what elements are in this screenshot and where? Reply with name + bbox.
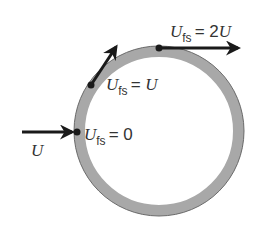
stagnation-label: Ufs= 0 [84,125,133,148]
stagnation-point [74,129,81,136]
top-label: Ufs= 2U [170,22,233,45]
cylinder-flow-diagram: U Ufs= 0 Ufs= U Ufs= 2U [0,0,262,231]
mid-label: Ufs= U [106,75,159,98]
incoming-flow-label: U [31,141,45,160]
